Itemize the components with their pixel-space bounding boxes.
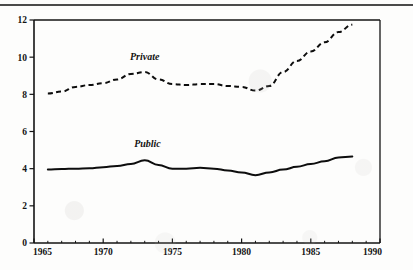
y-tick-label-10: 10 [18, 53, 28, 63]
x-tick-label-1965: 1965 [33, 247, 52, 257]
chart-series-labels: PrivatePublic [130, 51, 161, 149]
chart-series [48, 25, 352, 176]
y-tick-label-4: 4 [22, 164, 27, 174]
y-tick-label-8: 8 [22, 90, 27, 100]
series-label-public: Public [134, 138, 161, 149]
series-line-public [48, 157, 352, 176]
x-tick-label-1990: 1990 [363, 247, 382, 257]
x-tick-label-1970: 1970 [94, 247, 113, 257]
chart-tick-labels: 024681012196519701975198019851990 [18, 15, 383, 256]
series-label-private: Private [130, 51, 160, 62]
line-chart: 024681012196519701975198019851990 Privat… [0, 0, 413, 270]
x-tick-label-1975: 1975 [163, 247, 182, 257]
figure-canvas: 024681012196519701975198019851990 Privat… [0, 0, 413, 270]
x-tick-label-1980: 1980 [232, 247, 251, 257]
x-tick-label-1985: 1985 [301, 247, 320, 257]
chart-ticks [30, 20, 381, 243]
y-tick-label-2: 2 [22, 201, 27, 211]
chart-axes [34, 20, 380, 243]
series-line-private [48, 25, 352, 94]
y-tick-label-12: 12 [18, 15, 28, 25]
y-tick-label-0: 0 [22, 238, 27, 248]
y-tick-label-6: 6 [22, 127, 27, 137]
